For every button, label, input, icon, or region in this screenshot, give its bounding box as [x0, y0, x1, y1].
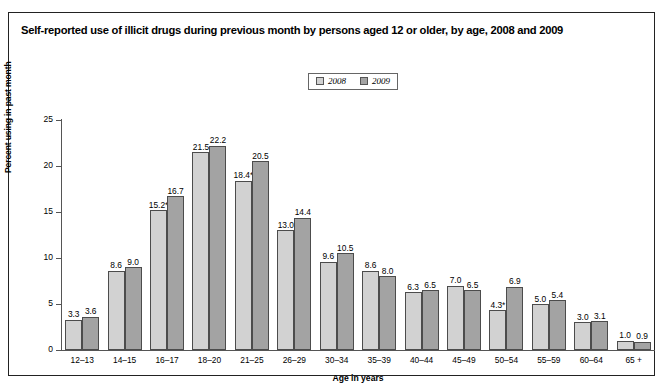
bar-value-label: 7.0 — [450, 275, 462, 285]
bar-value-label: 6.3 — [407, 282, 419, 292]
bar-2008: 7.0 — [447, 286, 464, 350]
bar-group: 15.2*16.7 — [146, 120, 188, 350]
bar-value-label: 3.1 — [594, 311, 606, 321]
bar-2008: 18.4* — [235, 181, 252, 350]
bar-value-label: 5.0 — [535, 294, 547, 304]
bar-2009: 14.4 — [294, 218, 311, 350]
bar-2008: 21.5 — [192, 152, 209, 350]
bar-2009: 9.0 — [125, 267, 142, 350]
y-axis-tick-label: 25 — [44, 114, 53, 124]
bar-2009: 22.2 — [209, 146, 226, 350]
x-axis-tick-labels: 12–1314–1516–1718–2021–2526–2930–3435–39… — [61, 355, 655, 365]
x-axis-tick-label: 35–39 — [358, 355, 400, 365]
figure-frame: Self-reported use of illicit drugs durin… — [8, 12, 655, 376]
bar-value-label: 18.4* — [234, 170, 254, 180]
x-axis-tick-label: 12–13 — [61, 355, 103, 365]
x-axis-tick-label: 18–20 — [188, 355, 230, 365]
bar-value-label: 10.5 — [337, 243, 353, 253]
bar-group: 6.36.5 — [400, 120, 442, 350]
bar-value-label: 3.3 — [68, 309, 80, 319]
figure-title: Self-reported use of illicit drugs durin… — [21, 23, 642, 37]
bar-2009: 3.1 — [591, 321, 608, 350]
bar-value-label: 4.3* — [490, 300, 505, 310]
bar-2009: 6.9 — [506, 287, 523, 350]
x-axis-tick-label: 40–44 — [400, 355, 442, 365]
chart-legend: 20082009 — [308, 73, 398, 90]
bar-2008: 13.0 — [277, 230, 294, 350]
bar-2008: 5.0 — [532, 304, 549, 350]
bar-2009: 6.5 — [422, 290, 439, 350]
bar-value-label: 14.4 — [295, 207, 311, 217]
bar-value-label: 22.2 — [210, 135, 226, 145]
bar-group: 18.4*20.5 — [231, 120, 273, 350]
bar-value-label: 8.0 — [382, 266, 394, 276]
bar-2009: 16.7 — [167, 196, 184, 350]
bar-value-label: 8.6 — [110, 260, 122, 270]
y-axis-tick-label: 20 — [44, 160, 53, 170]
bar-group: 4.3*6.9 — [485, 120, 527, 350]
legend-label-2009: 2009 — [372, 76, 390, 86]
bar-value-label: 15.2* — [149, 200, 169, 210]
bar-2008: 15.2* — [150, 210, 167, 350]
bar-value-label: 5.4 — [552, 290, 564, 300]
y-axis-tick-label: 10 — [44, 252, 53, 262]
bar-group: 9.610.5 — [316, 120, 358, 350]
bar-group: 13.014.4 — [273, 120, 315, 350]
bar-value-label: 0.9 — [636, 331, 648, 341]
bar-groups: 3.33.68.69.015.2*16.721.522.218.4*20.513… — [61, 120, 655, 350]
bar-2009: 5.4 — [549, 300, 566, 350]
x-axis-tick-label: 60–64 — [570, 355, 612, 365]
bar-2008: 8.6 — [108, 271, 125, 350]
x-axis-tick-label: 16–17 — [146, 355, 188, 365]
bar-value-label: 6.9 — [509, 276, 521, 286]
bar-group: 7.06.5 — [443, 120, 485, 350]
bar-2008: 1.0 — [617, 341, 634, 350]
x-axis-tick-label: 26–29 — [273, 355, 315, 365]
bar-2009: 10.5 — [337, 253, 354, 350]
y-axis-tick-label: 15 — [44, 206, 53, 216]
y-axis-tick-label: 5 — [48, 298, 53, 308]
bar-value-label: 9.0 — [127, 257, 139, 267]
bar-value-label: 6.5 — [467, 280, 479, 290]
bar-value-label: 6.5 — [424, 280, 436, 290]
bar-group: 3.33.6 — [61, 120, 103, 350]
x-axis-tick-label: 50–54 — [485, 355, 527, 365]
bar-value-label: 3.6 — [85, 306, 97, 316]
bar-group: 8.69.0 — [103, 120, 145, 350]
x-axis-title: Age in years — [61, 373, 655, 383]
bar-value-label: 3.0 — [577, 312, 589, 322]
bar-group: 3.03.1 — [570, 120, 612, 350]
bar-2008: 8.6 — [362, 271, 379, 350]
x-axis-tick-label: 30–34 — [316, 355, 358, 365]
bar-value-label: 13.0 — [278, 220, 294, 230]
legend-label-2008: 2008 — [328, 76, 346, 86]
legend-swatch-icon-2009 — [360, 77, 368, 85]
legend-swatch-icon-2008 — [316, 77, 324, 85]
bar-value-label: 8.6 — [365, 260, 377, 270]
x-axis-tick-label: 45–49 — [443, 355, 485, 365]
bar-2008: 3.3 — [65, 320, 82, 350]
x-axis-tick-label: 21–25 — [231, 355, 273, 365]
x-axis-tick-label: 14–15 — [103, 355, 145, 365]
x-axis-tick-label: 55–59 — [528, 355, 570, 365]
bar-2008: 3.0 — [574, 322, 591, 350]
bar-2008: 9.6 — [320, 262, 337, 350]
bar-value-label: 1.0 — [619, 330, 631, 340]
legend-entry-2009: 2009 — [360, 76, 390, 86]
bar-2009: 6.5 — [464, 290, 481, 350]
x-axis-tick-label: 65 + — [612, 355, 654, 365]
bar-group: 8.68.0 — [358, 120, 400, 350]
bar-2008: 4.3* — [489, 310, 506, 350]
x-axis-line — [61, 350, 655, 351]
legend-entry-2008: 2008 — [316, 76, 346, 86]
bar-value-label: 16.7 — [167, 186, 183, 196]
y-axis-tick-label: 0 — [48, 344, 53, 354]
bar-value-label: 21.5 — [193, 142, 209, 152]
bar-group: 5.05.4 — [528, 120, 570, 350]
bar-value-label: 20.5 — [252, 151, 268, 161]
bar-group: 1.00.9 — [612, 120, 654, 350]
bar-2008: 6.3 — [405, 292, 422, 350]
y-axis-title: Percent using in past month — [3, 61, 13, 173]
bar-2009: 20.5 — [252, 161, 269, 350]
bar-2009: 0.9 — [634, 342, 651, 350]
